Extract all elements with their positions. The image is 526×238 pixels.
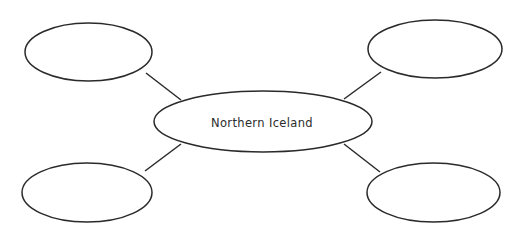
bubble-top-right-shape[interactable]	[368, 20, 502, 78]
bubble-top-right[interactable]	[368, 20, 502, 78]
bubble-bottom-left-shape[interactable]	[22, 163, 152, 222]
center-bubble-label: Northern Iceland	[211, 116, 313, 130]
connector-bottom-left	[145, 144, 181, 171]
bubble-bottom-left[interactable]	[22, 163, 152, 222]
connector-bottom-right	[344, 144, 380, 172]
bubble-map-diagram: Northern Iceland	[0, 0, 526, 238]
connector-top-left	[146, 73, 181, 100]
connector-top-right	[344, 72, 381, 99]
bubble-top-left-shape[interactable]	[25, 23, 152, 81]
bubble-top-left[interactable]	[25, 23, 152, 81]
bubble-bottom-right[interactable]	[367, 163, 500, 222]
diagram-canvas: Northern Iceland	[0, 0, 526, 238]
center-bubble[interactable]: Northern Iceland	[154, 91, 372, 152]
bubble-bottom-right-shape[interactable]	[367, 163, 500, 222]
